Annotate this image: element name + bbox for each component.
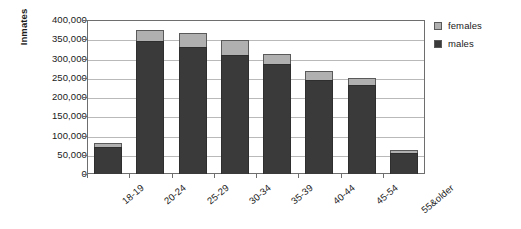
y-tick-label: 300,000 <box>27 54 87 64</box>
x-tick-mark <box>298 174 299 178</box>
y-tick-label: 250,000 <box>27 73 87 83</box>
y-tick-label: 50,000 <box>27 150 87 160</box>
bar-segment-females[interactable] <box>263 54 291 64</box>
legend-label: females <box>448 21 482 31</box>
bar-segment-males[interactable] <box>263 64 291 174</box>
chart-legend: femalesmales <box>434 19 520 55</box>
bar-segment-males[interactable] <box>136 41 164 174</box>
x-tick-mark <box>383 174 384 178</box>
bar-group[interactable] <box>263 54 291 174</box>
x-tick-mark <box>172 174 173 178</box>
y-tick-label: 350,000 <box>27 34 87 44</box>
bar-segment-females[interactable] <box>348 78 376 86</box>
x-tick-label: 18-19 <box>120 182 146 206</box>
bar-segment-males[interactable] <box>305 80 333 174</box>
bar-segment-females[interactable] <box>179 33 207 46</box>
bars-layer <box>87 20 425 174</box>
bar-segment-females[interactable] <box>136 30 164 42</box>
y-tick-label: 400,000 <box>27 15 87 25</box>
y-tick-label: 150,000 <box>27 111 87 121</box>
y-tick-label: 100,000 <box>27 131 87 141</box>
bar-segment-males[interactable] <box>348 85 376 174</box>
legend-item[interactable]: males <box>434 37 520 51</box>
legend-swatch-icon <box>434 22 442 30</box>
bar-segment-males[interactable] <box>390 153 418 174</box>
bar-segment-males[interactable] <box>221 55 249 174</box>
bar-segment-males[interactable] <box>94 147 122 174</box>
y-tick-label: 200,000 <box>27 92 87 102</box>
bar-group[interactable] <box>390 150 418 174</box>
x-tick-mark <box>341 174 342 178</box>
x-tick-label: 30-34 <box>247 182 273 206</box>
x-tick-label: 25-29 <box>204 182 230 206</box>
x-tick-label: 55&older <box>419 182 456 215</box>
x-tick-mark <box>87 174 88 178</box>
legend-swatch-icon <box>434 40 442 48</box>
x-tick-mark <box>129 174 130 178</box>
y-axis: 400,000350,000300,000250,000200,000150,0… <box>0 0 87 229</box>
x-tick-label: 45-54 <box>373 182 399 206</box>
bar-group[interactable] <box>94 143 122 174</box>
bar-group[interactable] <box>136 30 164 174</box>
legend-label: males <box>448 39 474 49</box>
bar-group[interactable] <box>305 71 333 174</box>
x-tick-label: 35-39 <box>289 182 315 206</box>
bar-group[interactable] <box>221 40 249 174</box>
y-tick-label: 0 <box>27 169 87 179</box>
x-tick-mark <box>214 174 215 178</box>
bar-group[interactable] <box>179 33 207 174</box>
bar-segment-females[interactable] <box>94 143 122 147</box>
x-tick-mark <box>256 174 257 178</box>
bar-chart: Inmates 400,000350,000300,000250,000200,… <box>0 0 521 229</box>
x-tick-label: 40-44 <box>331 182 357 206</box>
bar-group[interactable] <box>348 78 376 174</box>
x-tick-label: 20-24 <box>162 182 188 206</box>
bar-segment-females[interactable] <box>390 150 418 153</box>
legend-item[interactable]: females <box>434 19 520 33</box>
bar-segment-males[interactable] <box>179 47 207 174</box>
bar-segment-females[interactable] <box>221 40 249 55</box>
bar-segment-females[interactable] <box>305 71 333 80</box>
